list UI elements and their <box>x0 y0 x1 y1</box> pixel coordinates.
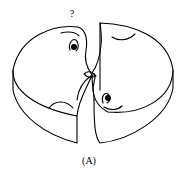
left-mouth <box>49 102 73 108</box>
right-pupil-icon <box>105 95 111 101</box>
center-inner-left <box>77 75 92 100</box>
left-pupil-icon <box>71 44 77 50</box>
diagram: ? (A) <box>0 0 179 179</box>
left-piece-top <box>13 27 92 116</box>
question-mark: ? <box>70 8 75 19</box>
center-inner-right <box>92 75 94 100</box>
right-upper-mouth <box>112 34 135 40</box>
right-lower-mouth <box>104 106 122 110</box>
right-piece-side <box>94 70 173 143</box>
left-brow <box>61 32 79 36</box>
figure-caption: (A) <box>82 155 96 167</box>
